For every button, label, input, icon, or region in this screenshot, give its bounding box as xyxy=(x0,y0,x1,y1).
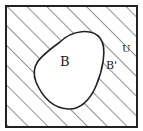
venn-diagram: B B' U xyxy=(0,0,143,131)
label-complement: B' xyxy=(106,59,117,72)
venn-svg: B B' U xyxy=(0,0,143,131)
label-set-b: B xyxy=(60,54,70,69)
label-universe: U xyxy=(122,43,130,54)
